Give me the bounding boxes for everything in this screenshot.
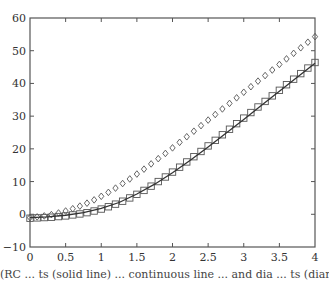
y-tick-label: 50: [12, 45, 26, 58]
diamond-marker: [156, 155, 161, 162]
diamond-marker: [241, 89, 246, 96]
diamond-marker: [184, 133, 189, 140]
diamond-marker: [113, 185, 118, 192]
series-squares: [27, 59, 318, 221]
diamond-marker: [42, 213, 47, 220]
diamond-marker: [106, 189, 111, 196]
axis-ticks: 00.511.522.533.54−100102030405060: [3, 12, 319, 264]
diamond-marker: [170, 145, 175, 152]
diamond-marker: [134, 171, 139, 178]
diamond-marker: [270, 67, 275, 74]
diamond-marker: [148, 161, 153, 168]
y-tick-label: 30: [12, 110, 26, 123]
x-tick-label: 1.5: [128, 251, 146, 264]
diamond-marker: [63, 208, 68, 215]
diamond-marker: [141, 166, 146, 173]
diamond-marker: [99, 193, 104, 200]
y-tick-label: 20: [12, 143, 26, 156]
diamond-marker: [220, 106, 225, 113]
diamond-marker: [120, 180, 125, 187]
diamond-marker: [70, 205, 75, 212]
diamond-marker: [163, 150, 168, 157]
y-tick-label: 60: [12, 12, 26, 25]
diamond-marker: [177, 139, 182, 146]
diamond-marker: [205, 117, 210, 124]
diamond-marker: [248, 83, 253, 90]
diamond-marker: [91, 197, 96, 204]
x-tick-label: 2: [169, 251, 176, 264]
x-tick-label: 2.5: [199, 251, 217, 264]
diamond-marker: [298, 44, 303, 51]
x-tick-label: 0: [27, 251, 34, 264]
diamond-marker: [198, 122, 203, 129]
diamond-marker: [227, 100, 232, 107]
y-tick-label: −10: [3, 241, 26, 254]
diamond-marker: [255, 78, 260, 85]
diamond-marker: [277, 61, 282, 68]
x-tick-label: 3: [240, 251, 247, 264]
series-diamonds: [27, 33, 317, 221]
diamond-marker: [84, 200, 89, 207]
y-tick-label: 0: [19, 208, 26, 221]
x-tick-label: 3.5: [271, 251, 289, 264]
diamond-marker: [213, 111, 218, 118]
diamond-marker: [191, 128, 196, 135]
diamond-marker: [262, 72, 267, 79]
diamond-marker: [284, 56, 289, 63]
series-solid-line: [30, 63, 315, 217]
y-tick-label: 10: [12, 176, 26, 189]
diamond-marker: [291, 50, 296, 57]
x-tick-label: 0.5: [57, 251, 75, 264]
series-layer: [27, 33, 318, 221]
x-tick-label: 4: [312, 251, 319, 264]
y-tick-label: 40: [12, 77, 26, 90]
figure-caption: (RC ... ts (solid line) ... continuous l…: [0, 268, 329, 282]
x-tick-label: 1: [98, 251, 105, 264]
diamond-marker: [234, 95, 239, 102]
diamond-marker: [127, 176, 132, 183]
diamond-marker: [305, 39, 310, 46]
diamond-marker: [77, 203, 82, 210]
